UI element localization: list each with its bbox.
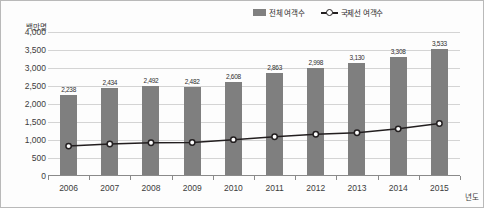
bar	[307, 68, 324, 176]
bar-column	[419, 32, 460, 176]
x-axis-tick	[48, 176, 49, 180]
bar	[266, 73, 283, 176]
bar-value-label: 3,130	[336, 54, 377, 61]
bar-value-label: 2,608	[213, 73, 254, 80]
x-axis-tick-label: 2010	[213, 183, 254, 193]
x-axis-tick	[254, 176, 255, 180]
bar	[431, 49, 448, 176]
x-axis: 2006200720082009201020112012201320142015	[48, 176, 460, 196]
x-axis-tick	[89, 176, 90, 180]
bar-value-label: 2,434	[89, 79, 130, 86]
x-axis-tick-label: 2014	[378, 183, 419, 193]
bar	[60, 95, 77, 176]
legend-item-label: 국제선 여객수	[341, 7, 384, 18]
bar-column	[48, 32, 89, 176]
x-axis-unit-label: 년도	[465, 191, 479, 202]
x-axis-tick-label: 2006	[48, 183, 89, 193]
bar	[390, 57, 407, 176]
bar	[225, 82, 242, 176]
x-axis-tick	[130, 176, 131, 180]
chart-legend: 전체 여객수 국제선 여객수	[1, 7, 485, 18]
legend-item-label: 전체 여객수	[269, 7, 305, 18]
y-axis-tick-label: 3,000	[6, 63, 46, 73]
bar-value-label: 2,238	[48, 86, 89, 93]
x-axis-tick	[213, 176, 214, 180]
legend-item-international-passengers: 국제선 여객수	[321, 7, 384, 18]
x-axis-tick-label: 2008	[130, 183, 171, 193]
bar	[348, 63, 365, 176]
x-axis-tick-label: 2013	[336, 183, 377, 193]
chart-figure: 전체 여객수 국제선 여객수 백만명 4,0003,5003,0002,5002…	[0, 0, 484, 208]
x-axis-tick-label: 2007	[89, 183, 130, 193]
y-axis-tick-label: 3,500	[6, 45, 46, 55]
bar	[101, 88, 118, 176]
x-axis-tick-label: 2011	[254, 183, 295, 193]
bar-column	[130, 32, 171, 176]
x-axis-tick	[336, 176, 337, 180]
y-axis-tick-label: 1,500	[6, 117, 46, 127]
x-axis-tick	[378, 176, 379, 180]
y-axis-tick-labels: 4,0003,5003,0002,5002,0001,5001,0005000	[1, 32, 46, 176]
y-axis-tick-label: 500	[6, 153, 46, 163]
bar-value-label: 2,998	[295, 59, 336, 66]
bar-column	[213, 32, 254, 176]
y-axis-tick-label: 4,000	[6, 27, 46, 37]
y-axis-tick-label: 2,500	[6, 81, 46, 91]
legend-bar-swatch-icon	[253, 9, 266, 16]
x-axis-tick	[172, 176, 173, 180]
bar	[142, 86, 159, 176]
bar-column	[254, 32, 295, 176]
bar	[184, 87, 201, 176]
x-axis-tick-label: 2009	[172, 183, 213, 193]
y-axis-tick-label: 2,000	[6, 99, 46, 109]
bar-value-label: 2,492	[130, 77, 171, 84]
bar-column	[172, 32, 213, 176]
x-axis-tick	[460, 176, 461, 180]
bar-value-label: 2,482	[172, 78, 213, 85]
plot-area: 2,2382,4342,4922,4822,6082,8632,9983,130…	[48, 32, 460, 176]
bar-column	[295, 32, 336, 176]
bar-value-label: 3,308	[378, 48, 419, 55]
y-axis-tick-label: 1,000	[6, 135, 46, 145]
x-axis-tick-label: 2015	[419, 183, 460, 193]
y-axis-tick-label: 0	[6, 171, 46, 181]
bar-column	[89, 32, 130, 176]
x-axis-tick	[419, 176, 420, 180]
x-axis-tick-label: 2012	[295, 183, 336, 193]
legend-item-total-passengers: 전체 여객수	[253, 7, 305, 18]
bar-value-label: 3,533	[419, 40, 460, 47]
legend-line-marker-swatch-icon	[321, 8, 338, 17]
x-axis-tick	[295, 176, 296, 180]
bar-value-label: 2,863	[254, 64, 295, 71]
